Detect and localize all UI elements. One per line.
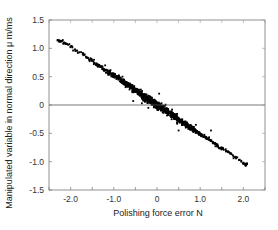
data-point: [218, 147, 220, 149]
y-axis-label: Manipulated variable in normal direction…: [4, 17, 14, 209]
data-point: [225, 148, 227, 150]
data-point: [208, 139, 210, 141]
outlier-point: [141, 102, 143, 104]
data-point: [144, 99, 146, 101]
data-point: [152, 101, 154, 103]
data-point: [199, 133, 201, 135]
data-point: [111, 72, 113, 74]
data-point: [205, 136, 207, 138]
data-point: [160, 107, 162, 109]
data-point: [90, 57, 92, 59]
y-tick-label: 0: [39, 100, 44, 110]
data-point: [215, 145, 217, 147]
data-point: [148, 95, 150, 97]
x-tick-label: 0: [155, 194, 160, 204]
x-tick-label: -2.0: [63, 194, 78, 204]
data-point: [117, 77, 119, 79]
data-point: [234, 156, 236, 158]
y-tick-label: 0.5: [32, 72, 44, 82]
data-point: [195, 130, 197, 132]
data-point: [136, 88, 138, 90]
y-tick-label: -1.5: [29, 185, 44, 195]
x-tick-label: 2.0: [237, 194, 249, 204]
data-point: [109, 74, 111, 76]
data-point: [126, 84, 128, 86]
data-point: [59, 41, 61, 43]
points-layer: [57, 39, 248, 167]
data-point: [89, 60, 91, 62]
data-point: [102, 68, 104, 70]
data-point: [98, 64, 100, 66]
y-tick-labels: -1.5-1.0-0.500.51.01.5: [29, 15, 44, 195]
data-point: [165, 110, 167, 112]
data-point: [182, 122, 184, 124]
data-point: [246, 162, 248, 164]
data-point: [170, 115, 172, 117]
data-point: [165, 112, 167, 114]
data-point: [120, 77, 122, 79]
data-point: [141, 90, 143, 92]
data-point: [149, 96, 151, 98]
data-point: [174, 113, 176, 115]
data-point: [179, 122, 181, 124]
data-point: [100, 66, 102, 68]
data-point: [184, 121, 186, 123]
data-point: [91, 60, 93, 62]
data-point: [176, 123, 178, 125]
data-point: [163, 112, 165, 114]
outlier-point: [132, 100, 134, 102]
data-point: [123, 83, 125, 85]
y-tick-label: 1.5: [32, 15, 44, 25]
data-point: [236, 157, 238, 159]
data-point: [96, 63, 98, 65]
outlier-point: [195, 124, 197, 126]
data-point: [78, 51, 80, 53]
data-point: [238, 159, 240, 161]
data-point: [121, 80, 123, 82]
scatter-chart: -2.0-1.001.02.0 -1.5-1.0-0.500.51.01.5 P…: [0, 0, 278, 230]
data-point: [153, 105, 155, 107]
data-point: [167, 114, 169, 116]
data-point: [61, 40, 63, 42]
data-point: [184, 123, 186, 125]
data-point: [143, 96, 145, 98]
data-point: [149, 101, 151, 103]
data-point: [166, 108, 168, 110]
data-point: [113, 75, 115, 77]
data-point: [132, 88, 134, 90]
data-point: [70, 46, 72, 48]
data-point: [157, 102, 159, 104]
data-point: [175, 114, 177, 116]
data-point: [139, 93, 141, 95]
data-point: [216, 145, 218, 147]
data-point: [80, 51, 82, 53]
data-point: [225, 150, 227, 152]
outlier-point: [104, 64, 106, 66]
data-point: [63, 42, 65, 44]
data-point: [200, 135, 202, 137]
data-point: [114, 76, 116, 78]
data-point: [141, 93, 143, 95]
data-point: [94, 62, 96, 64]
data-point: [93, 59, 95, 61]
data-point: [65, 43, 67, 45]
data-point: [74, 48, 76, 50]
data-point: [147, 98, 149, 100]
data-point: [242, 162, 244, 164]
data-point: [144, 101, 146, 103]
x-tick-label: -1.0: [106, 194, 121, 204]
data-point: [186, 124, 188, 126]
outlier-point: [122, 76, 124, 78]
data-point: [68, 43, 70, 45]
data-point: [130, 86, 132, 88]
data-point: [110, 69, 112, 71]
outlier-point: [158, 93, 160, 95]
data-point: [127, 86, 129, 88]
data-point: [208, 136, 210, 138]
data-point: [119, 80, 121, 82]
data-point: [118, 74, 120, 76]
data-point: [178, 119, 180, 121]
y-tick-label: 1.0: [32, 43, 44, 53]
data-point: [72, 50, 74, 52]
x-tick-labels: -2.0-1.001.02.0: [63, 194, 249, 204]
